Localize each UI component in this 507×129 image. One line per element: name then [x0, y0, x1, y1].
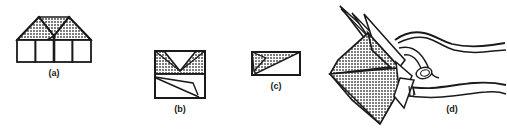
figure-a-panel-2	[36, 40, 55, 62]
figure-c-caption: (c)	[271, 81, 282, 91]
figure-a-panel-4	[73, 40, 92, 62]
figure-b-caption: (b)	[174, 104, 186, 114]
figure-a-caption: (a)	[49, 68, 60, 78]
figure-a-panel-1	[17, 40, 36, 62]
origami-figure-plate: (a) (b) (c)	[0, 0, 507, 129]
figure-a-panel-3	[54, 40, 73, 62]
figure-d-caption: (d)	[446, 104, 458, 114]
figure-plate-canvas: (a) (b) (c)	[0, 0, 507, 129]
